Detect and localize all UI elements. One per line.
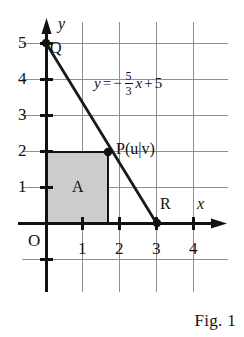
x-axis-arrowhead xyxy=(211,219,227,229)
y-axis-label: y xyxy=(58,16,65,32)
point-r-marker xyxy=(153,219,161,227)
equation-plus: + xyxy=(144,76,152,91)
point-q-label: Q xyxy=(50,40,62,56)
xtick-label-2: 2 xyxy=(115,240,124,257)
equation-fraction-numerator: 5 xyxy=(125,70,133,84)
equation-fraction: 5 3 xyxy=(125,70,133,97)
point-p-label: P(u|v) xyxy=(116,141,155,157)
equation-lhs: y xyxy=(94,76,101,91)
ytick-label-1: 1 xyxy=(18,178,27,195)
point-q-marker xyxy=(42,39,50,47)
point-p-marker xyxy=(104,148,112,156)
equation-fraction-denominator: 3 xyxy=(125,84,133,97)
equation-intercept: 5 xyxy=(155,76,163,91)
coordinate-plot xyxy=(0,0,244,337)
figure-container: 5 4 3 2 1 1 2 3 4 y x O Q P(u|v) R A y =… xyxy=(0,0,244,337)
y-axis-arrowhead xyxy=(42,18,52,34)
origin-label: O xyxy=(28,232,40,249)
function-equation: y = − 5 3 x + 5 xyxy=(94,70,162,97)
xtick-label-1: 1 xyxy=(78,240,87,257)
region-a-label: A xyxy=(72,179,84,195)
xtick-label-3: 3 xyxy=(152,240,161,257)
xtick-label-4: 4 xyxy=(189,240,198,257)
ytick-label-5: 5 xyxy=(18,34,27,51)
ytick-label-3: 3 xyxy=(18,106,27,123)
ytick-label-2: 2 xyxy=(18,142,27,159)
x-axis-label: x xyxy=(197,196,204,212)
ytick-label-4: 4 xyxy=(18,70,27,87)
figure-caption: Fig. 1 xyxy=(195,311,236,331)
equation-variable: x xyxy=(136,76,143,91)
point-r-label: R xyxy=(160,196,171,212)
equation-sign: − xyxy=(113,76,121,91)
equation-equals: = xyxy=(103,76,111,91)
